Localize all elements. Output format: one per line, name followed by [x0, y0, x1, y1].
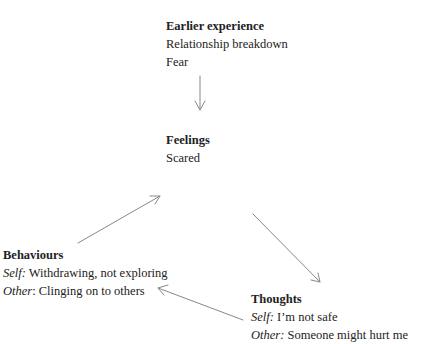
arrow-earlier-to-feelings-icon	[195, 76, 205, 110]
arrow-behaviours-to-feelings-icon	[78, 196, 160, 243]
arrow-feelings-to-thoughts-icon	[253, 214, 320, 282]
arrow-thoughts-to-behaviours-icon	[158, 285, 243, 320]
